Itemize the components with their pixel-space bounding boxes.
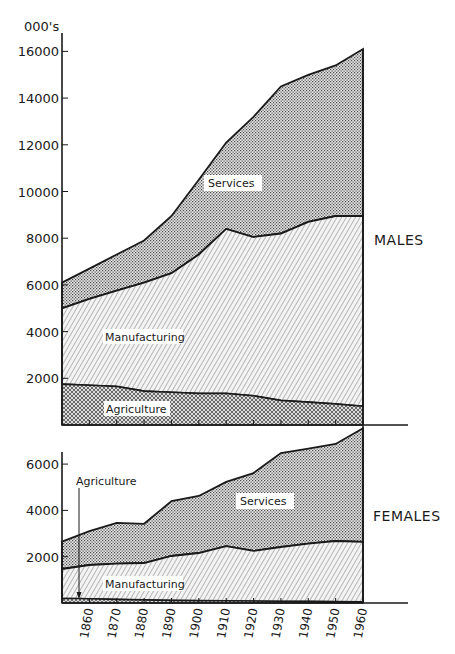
females-services-label: Services: [240, 495, 287, 508]
y-tick-label: 6000: [26, 457, 59, 472]
x-tick-label: 1910: [214, 607, 233, 640]
males-services-label: Services: [208, 177, 255, 190]
unit-label: 000's: [24, 19, 59, 34]
x-tick-label: 1860: [77, 607, 96, 640]
females-panel: 200040006000 Services Manufacturing Agri…: [26, 426, 441, 603]
females-agriculture-label: Agriculture: [76, 475, 137, 488]
employment-chart: 200040006000800010000120001400016000 000…: [0, 0, 455, 654]
y-tick-label: 2000: [26, 371, 59, 386]
y-tick-label: 14000: [18, 91, 59, 106]
x-tick-label: 1960: [351, 607, 370, 640]
y-tick-label: 10000: [18, 185, 59, 200]
x-tick-label: 1950: [323, 607, 342, 640]
males-y-ticks: 200040006000800010000120001400016000: [18, 44, 68, 386]
females-manufacturing-label: Manufacturing: [105, 578, 185, 591]
y-tick-label: 4000: [26, 503, 59, 518]
y-tick-label: 6000: [26, 278, 59, 293]
x-tick-label: 1920: [241, 607, 260, 640]
x-axis-year-labels: 1860187018801890190019101920193019401950…: [77, 607, 370, 640]
y-tick-label: 16000: [18, 44, 59, 59]
males-manufacturing-area: [62, 216, 363, 406]
x-tick-label: 1870: [105, 607, 124, 640]
x-tick-label: 1880: [132, 607, 151, 640]
males-agriculture-label: Agriculture: [106, 403, 167, 416]
x-tick-label: 1890: [159, 607, 178, 640]
x-tick-label: 1940: [296, 607, 315, 640]
y-tick-label: 2000: [26, 550, 59, 565]
males-panel: 200040006000800010000120001400016000 000…: [18, 19, 424, 425]
x-tick-label: 1900: [187, 607, 206, 640]
y-tick-label: 4000: [26, 325, 59, 340]
y-tick-label: 8000: [26, 231, 59, 246]
x-tick-label: 1930: [269, 607, 288, 640]
females-panel-label: FEMALES: [373, 508, 441, 524]
males-manufacturing-label: Manufacturing: [105, 331, 185, 344]
males-panel-label: MALES: [374, 232, 424, 248]
y-tick-label: 12000: [18, 138, 59, 153]
